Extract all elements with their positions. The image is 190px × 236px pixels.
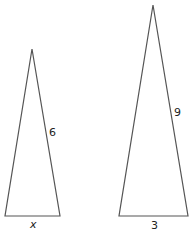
large-triangle-side-label: 9	[174, 106, 181, 119]
large-triangle: 9 3	[119, 5, 188, 232]
small-triangle-base-label: x	[29, 218, 37, 231]
small-triangle: 6 x	[5, 49, 60, 231]
similar-triangles-diagram: 6 x 9 3	[0, 0, 190, 236]
small-triangle-side-label: 6	[49, 126, 56, 139]
large-triangle-base-label: 3	[151, 219, 158, 232]
